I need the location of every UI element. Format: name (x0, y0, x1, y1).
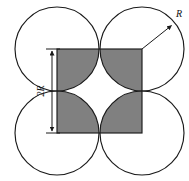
figure-container: R 2R (0, 0, 189, 181)
radius-label: R (175, 8, 182, 19)
shaded-square-region (57, 49, 142, 133)
side-length-label: 2R (35, 85, 46, 96)
circle-square-packing-figure: R 2R (0, 0, 189, 181)
